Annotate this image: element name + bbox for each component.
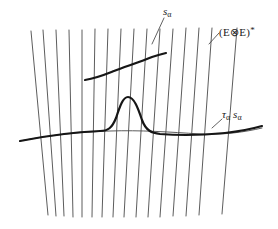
fiber-line-13 (186, 28, 199, 216)
bundle-leader (209, 33, 219, 44)
fiber-lines-group (31, 28, 237, 217)
fiber-line-5 (92, 29, 95, 217)
s-alpha-leader (152, 18, 164, 44)
fiber-line-6 (102, 29, 108, 217)
label-bundle-first-e: E (223, 26, 230, 38)
fiber-line-11 (160, 29, 173, 217)
fiber-line-9 (136, 29, 147, 217)
fiber-line-3 (69, 30, 73, 217)
section-curve-s-alpha (85, 53, 166, 80)
tau-leader (212, 119, 222, 128)
label-s-alpha: sα (163, 6, 172, 19)
figure-root: sα (E⊗E)* τα sα (0, 0, 278, 229)
label-bundle-star: * (250, 25, 255, 35)
fiber-line-12 (173, 28, 186, 216)
tensor-product-icon: ⊗ (230, 26, 239, 38)
label-tensor-dual-bundle: (E⊗E)* (219, 26, 255, 38)
fiber-line-14 (199, 28, 212, 215)
fiber-line-1 (43, 30, 56, 216)
fiber-line-2 (56, 30, 64, 216)
label-s-alpha-subscript: α (167, 10, 171, 19)
fiber-line-8 (124, 29, 134, 217)
label-s-subscript: α (237, 113, 241, 122)
label-tau-alpha-s-alpha: τα sα (222, 109, 242, 122)
